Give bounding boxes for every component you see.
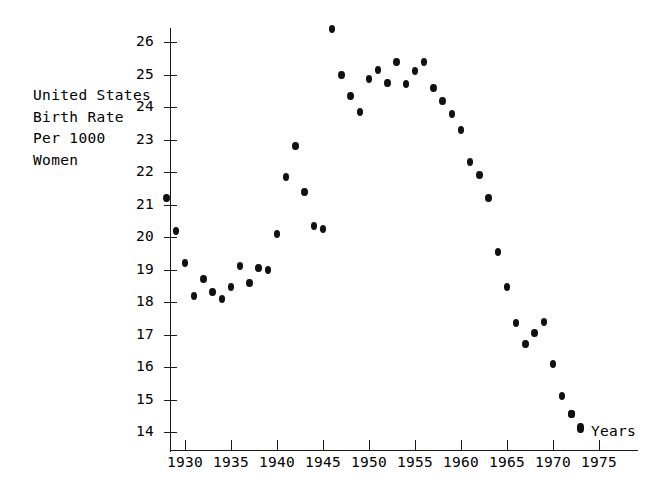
y-tick-mark <box>164 302 177 303</box>
data-point <box>338 71 345 79</box>
data-point <box>439 97 446 105</box>
x-tick-label-1975: 1975 <box>573 455 625 470</box>
x-tick-mark-1970 <box>553 440 554 451</box>
data-point <box>550 360 557 368</box>
data-point <box>329 25 336 33</box>
data-point <box>357 108 364 116</box>
data-point <box>209 288 216 296</box>
data-point <box>292 142 299 150</box>
y-tick-mark <box>164 172 177 173</box>
y-tick-label: 26 <box>126 34 154 49</box>
data-point <box>237 262 244 270</box>
data-point <box>219 295 226 303</box>
data-point <box>513 319 520 327</box>
x-tick-label-1965: 1965 <box>481 455 533 470</box>
data-point <box>182 259 189 267</box>
data-point <box>191 292 198 300</box>
data-point <box>449 110 456 118</box>
data-point <box>246 279 253 287</box>
data-point <box>522 340 529 348</box>
y-tick-mark <box>164 42 177 43</box>
data-point <box>347 92 354 100</box>
y-tick-mark <box>164 205 177 206</box>
x-tick-label-1945: 1945 <box>297 455 349 470</box>
data-point <box>403 80 410 88</box>
data-point <box>163 194 170 202</box>
data-point <box>200 275 207 283</box>
y-tick-mark <box>164 432 177 433</box>
data-point <box>504 283 511 291</box>
y-tick-label: 20 <box>126 229 154 244</box>
data-point <box>274 230 281 238</box>
data-point <box>531 329 538 337</box>
x-tick-mark-1935 <box>231 440 232 451</box>
x-tick-label-1960: 1960 <box>435 455 487 470</box>
y-tick-label: 14 <box>126 424 154 439</box>
data-point <box>577 425 584 433</box>
x-tick-label-1970: 1970 <box>527 455 579 470</box>
data-point <box>384 79 391 87</box>
data-point <box>320 225 327 233</box>
data-point <box>485 194 492 202</box>
y-tick-mark <box>164 400 177 401</box>
y-tick-label: 22 <box>126 164 154 179</box>
y-tick-label: 25 <box>126 67 154 82</box>
x-tick-mark-1965 <box>507 440 508 451</box>
x-tick-label-1940: 1940 <box>251 455 303 470</box>
y-tick-mark <box>164 107 177 108</box>
x-axis-title: Years <box>591 424 636 439</box>
y-tick-mark <box>164 335 177 336</box>
data-point <box>283 173 290 181</box>
y-tick-mark <box>164 75 177 76</box>
x-tick-label-1950: 1950 <box>343 455 395 470</box>
y-tick-label: 23 <box>126 132 154 147</box>
data-point <box>255 264 262 272</box>
y-tick-label: 16 <box>126 359 154 374</box>
y-tick-mark <box>164 237 177 238</box>
data-point <box>568 410 575 418</box>
data-point <box>366 75 373 83</box>
x-tick-mark-1930 <box>185 440 186 451</box>
y-axis-title: United States Birth Rate Per 1000 Women <box>33 85 151 171</box>
x-tick-mark-1955 <box>415 440 416 451</box>
data-point <box>311 222 318 230</box>
x-tick-mark-1960 <box>461 440 462 451</box>
x-tick-label-1955: 1955 <box>389 455 441 470</box>
data-point <box>393 58 400 66</box>
y-tick-label: 21 <box>126 197 154 212</box>
data-point <box>559 392 566 400</box>
data-point <box>375 66 382 74</box>
data-point <box>541 318 548 326</box>
data-point <box>228 283 235 291</box>
data-point <box>430 84 437 92</box>
data-point <box>476 171 483 179</box>
x-tick-mark-1950 <box>369 440 370 451</box>
data-point <box>301 188 308 196</box>
y-tick-label: 24 <box>126 99 154 114</box>
data-point <box>412 67 419 75</box>
birth-rate-scatter-chart: United States Birth Rate Per 1000 Women … <box>0 0 662 495</box>
x-tick-label-1935: 1935 <box>205 455 257 470</box>
data-point <box>458 126 465 134</box>
x-tick-label-1930: 1930 <box>159 455 211 470</box>
data-point <box>265 266 272 274</box>
y-tick-mark <box>164 270 177 271</box>
y-tick-label: 15 <box>126 392 154 407</box>
data-point <box>495 248 502 256</box>
y-tick-mark <box>164 367 177 368</box>
y-tick-label: 19 <box>126 262 154 277</box>
x-tick-mark-1975 <box>599 440 600 451</box>
y-tick-mark <box>164 140 177 141</box>
data-point <box>421 58 428 66</box>
x-tick-mark-1945 <box>323 440 324 451</box>
y-tick-label: 17 <box>126 327 154 342</box>
y-tick-label: 18 <box>126 294 154 309</box>
x-axis-line <box>170 450 638 451</box>
data-point <box>173 227 180 235</box>
x-tick-mark-1940 <box>277 440 278 451</box>
y-axis-line <box>170 28 171 452</box>
data-point <box>467 158 474 166</box>
